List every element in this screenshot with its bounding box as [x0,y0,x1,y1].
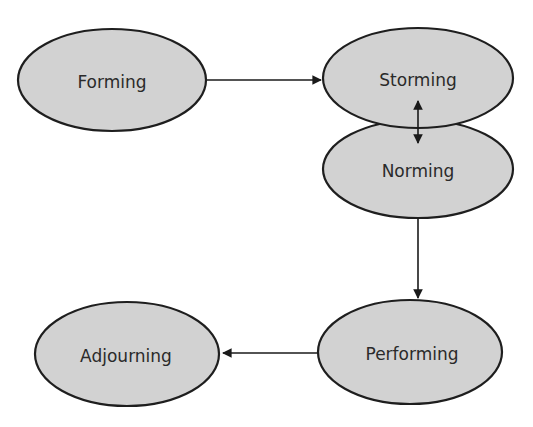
team-stages-diagram: Forming Norming Storming Performing Adjo… [0,0,533,427]
norming-label: Norming [382,161,455,181]
forming-label: Forming [77,72,146,92]
node-forming[interactable]: Forming [18,29,206,131]
adjourning-label: Adjourning [80,346,172,366]
storming-label: Storming [379,70,456,90]
performing-label: Performing [365,344,458,364]
node-performing[interactable]: Performing [318,300,502,404]
node-adjourning[interactable]: Adjourning [35,302,219,406]
